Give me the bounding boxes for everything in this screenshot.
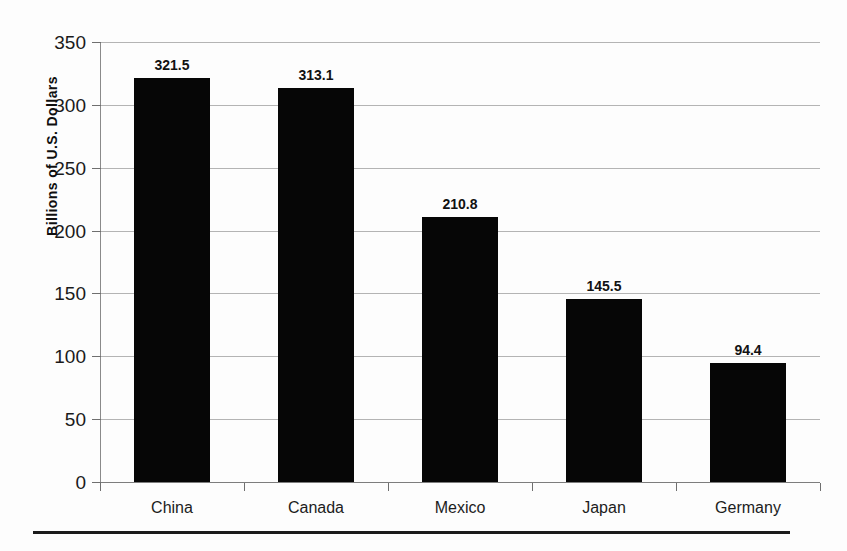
- y-axis-spine: [100, 42, 101, 483]
- bar-value-label: 94.4: [698, 343, 798, 357]
- category-label: Germany: [678, 500, 818, 516]
- x-axis-tick: [676, 483, 677, 491]
- x-axis-tick: [820, 483, 821, 491]
- gridline: [100, 482, 820, 483]
- y-axis-tick: [92, 231, 101, 232]
- y-axis-tick: [92, 419, 101, 420]
- plot-area: [100, 42, 820, 482]
- y-axis-tick-label: 0: [26, 473, 86, 492]
- bar: [134, 78, 210, 482]
- bar-value-label: 313.1: [266, 68, 366, 82]
- y-axis-tick-label: 100: [26, 347, 86, 366]
- category-label: Canada: [246, 500, 386, 516]
- category-label: China: [102, 500, 242, 516]
- x-axis-tick: [388, 483, 389, 491]
- category-label: Mexico: [390, 500, 530, 516]
- x-axis-tick: [532, 483, 533, 491]
- bar: [566, 299, 642, 482]
- y-axis-tick: [92, 293, 101, 294]
- y-axis-title: Billions of U.S. Dollars: [44, 36, 60, 276]
- category-label: Japan: [534, 500, 674, 516]
- bar: [422, 217, 498, 482]
- bar-value-label: 321.5: [122, 58, 222, 72]
- y-axis-tick-label: 50: [26, 410, 86, 429]
- bar: [278, 88, 354, 482]
- gridline: [100, 42, 820, 43]
- y-axis-tick: [92, 105, 101, 106]
- bar-value-label: 210.8: [410, 197, 510, 211]
- x-axis-tick: [100, 483, 101, 491]
- chart-page: 050100150200250300350 ChinaCanadaMexicoJ…: [0, 0, 847, 551]
- bar: [710, 363, 786, 482]
- y-axis-tick: [92, 168, 101, 169]
- bottom-rule: [33, 531, 790, 534]
- y-axis-tick: [92, 42, 101, 43]
- y-axis-tick-label: 150: [26, 284, 86, 303]
- x-axis-tick: [244, 483, 245, 491]
- y-axis-tick: [92, 356, 101, 357]
- bar-value-label: 145.5: [554, 279, 654, 293]
